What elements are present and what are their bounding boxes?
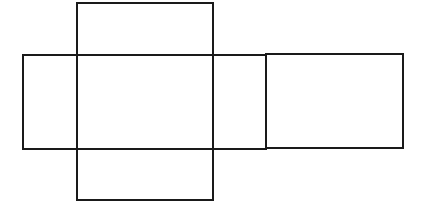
net-faces (23, 3, 403, 200)
top-face (77, 3, 213, 55)
bottom-face (77, 149, 213, 200)
front-face (77, 55, 213, 149)
back-face (266, 54, 403, 148)
left-face (23, 55, 77, 149)
prism-net-diagram (0, 0, 422, 214)
right-face (213, 55, 266, 149)
